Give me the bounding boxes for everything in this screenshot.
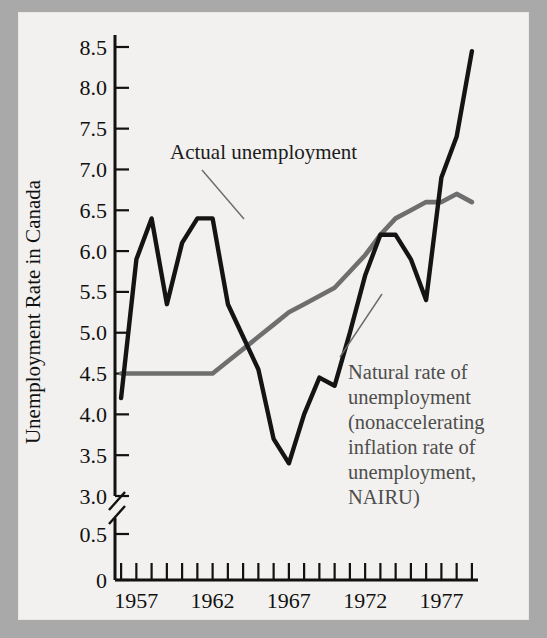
y-tick-label-6.5: 6.5 — [80, 198, 108, 223]
chart-canvas: Unemployment Rate in Canada 00.53.03.54.… — [18, 12, 529, 620]
y-tick-label-8.0: 8.0 — [80, 75, 108, 100]
x-tick-label-1967: 1967 — [267, 588, 311, 613]
y-axis-title: Unemployment Rate in Canada — [21, 179, 45, 444]
annotation-nairu-line-3: (nonaccelerating — [348, 411, 485, 434]
annotation-nairu-line-1: Natural rate of — [348, 361, 468, 383]
annotation-actual-unemployment: Actual unemployment — [170, 140, 357, 164]
x-tick-label-1972: 1972 — [343, 588, 387, 613]
x-axis-labels: 19571962196719721977 — [114, 588, 463, 613]
annotation-nairu-line-6: NAIRU) — [348, 486, 420, 509]
annotation-nairu-line-4: inflation rate of — [348, 436, 476, 458]
y-tick-label-4.5: 4.5 — [80, 361, 108, 386]
y-tick-label-0: 0 — [96, 568, 107, 593]
y-tick-label-7.0: 7.0 — [80, 157, 108, 182]
y-tick-label-3.5: 3.5 — [80, 443, 108, 468]
y-tick-label-0.5: 0.5 — [80, 522, 108, 547]
annotation-nairu-line-2: unemployment — [348, 386, 471, 409]
y-tick-label-6.0: 6.0 — [80, 239, 108, 264]
y-tick-label-7.5: 7.5 — [80, 116, 108, 141]
x-tick-label-1977: 1977 — [419, 588, 463, 613]
y-tick-label-3.0: 3.0 — [80, 484, 108, 509]
annotation-nairu: Natural rate ofunemployment(nonaccelerat… — [348, 361, 485, 509]
unemployment-line-chart: Unemployment Rate in Canada 00.53.03.54.… — [18, 12, 529, 620]
y-tick-label-8.5: 8.5 — [80, 35, 108, 60]
annotation-nairu-line-5: unemployment, — [348, 461, 476, 484]
y-tick-label-5.5: 5.5 — [80, 279, 108, 304]
x-axis-ticks — [121, 563, 472, 580]
leader-line-nairu — [340, 294, 382, 357]
x-tick-label-1962: 1962 — [191, 588, 235, 613]
figure-panel: Unemployment Rate in Canada 00.53.03.54.… — [18, 12, 529, 620]
x-tick-label-1957: 1957 — [114, 588, 158, 613]
leader-line-actual — [202, 170, 244, 219]
y-tick-label-5.0: 5.0 — [80, 320, 108, 345]
y-tick-label-4.0: 4.0 — [80, 402, 108, 427]
